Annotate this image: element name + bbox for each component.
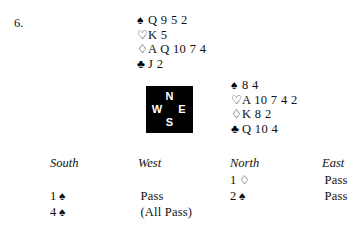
bid-suit-icon: ♠	[59, 189, 65, 205]
diamond-icon: ♢	[137, 42, 148, 57]
north-hand: ♠Q 9 5 2 ♡K 5 ♢A Q 10 7 4 ♣J 2	[137, 13, 206, 72]
north-club-cards: J 2	[148, 57, 163, 72]
east-heart-row: ♡A 10 7 4 2	[231, 93, 298, 108]
north-spade-cards: Q 9 5 2	[148, 13, 188, 28]
east-club-row: ♣Q 10 4	[231, 122, 298, 137]
bidding-row: 4♠ (All Pass)	[0, 205, 361, 221]
bid-north: 1♢	[230, 173, 250, 189]
east-club-cards: Q 10 4	[242, 122, 278, 137]
bid-level: 1	[50, 189, 57, 203]
bidding-table: South West North East 1♢ Pass 1♠	[0, 156, 361, 220]
club-icon: ♣	[137, 57, 148, 72]
bid-suit-icon: ♠	[59, 205, 65, 221]
east-heart-cards: A 10 7 4 2	[242, 93, 298, 108]
compass-east-letter: E	[176, 104, 188, 115]
east-spade-row: ♠8 4	[231, 78, 298, 93]
heart-icon: ♡	[231, 93, 242, 108]
compass-north-letter: N	[164, 91, 176, 102]
bid-suit-icon: ♠	[239, 189, 245, 205]
bid-level: 4	[50, 205, 57, 219]
north-spade-row: ♠Q 9 5 2	[137, 13, 206, 28]
club-icon: ♣	[231, 122, 242, 137]
problem-number: 6.	[14, 17, 23, 30]
north-club-row: ♣J 2	[137, 57, 206, 72]
bid-east: Pass	[322, 189, 348, 205]
bid-south	[50, 173, 53, 189]
bid-south: 1♠	[50, 189, 65, 205]
bridge-hand-problem: 6. ♠Q 9 5 2 ♡K 5 ♢A Q 10 7 4 ♣J 2 ♠8 4 ♡…	[0, 0, 361, 226]
bid-west: (All Pass)	[138, 205, 192, 221]
bid-text: Pass	[325, 173, 348, 187]
diamond-icon: ♢	[231, 107, 242, 122]
north-diamond-cards: A Q 10 7 4	[148, 42, 206, 57]
bidding-row: 1♠ Pass 2♠ Pass	[0, 189, 361, 205]
north-heart-cards: K 5	[148, 28, 167, 43]
east-diamond-cards: K 8 2	[242, 107, 272, 122]
bidding-header-row: South West North East	[0, 156, 361, 172]
east-diamond-row: ♢K 8 2	[231, 107, 298, 122]
bid-north: 2♠	[230, 189, 245, 205]
compass-west-letter: W	[151, 104, 163, 115]
bid-south: 4♠	[50, 205, 65, 221]
bid-text: Pass	[141, 189, 164, 203]
bid-suit-icon: ♢	[239, 173, 250, 189]
east-spade-cards: 8 4	[242, 78, 259, 93]
heart-icon: ♡	[137, 28, 148, 43]
bid-level: 1	[230, 173, 237, 187]
bidding-header-west: West	[138, 156, 161, 172]
bid-west: Pass	[138, 189, 164, 205]
bid-north	[230, 205, 233, 221]
north-diamond-row: ♢A Q 10 7 4	[137, 42, 206, 57]
bid-east: Pass	[322, 173, 348, 189]
bid-text: (All Pass)	[141, 205, 193, 219]
compass-south-letter: S	[164, 117, 176, 128]
bid-level: 2	[230, 189, 237, 203]
bidding-header-south: South	[50, 156, 78, 172]
spade-icon: ♠	[137, 13, 148, 28]
bid-text: Pass	[325, 189, 348, 203]
east-hand: ♠8 4 ♡A 10 7 4 2 ♢K 8 2 ♣Q 10 4	[231, 78, 298, 137]
spade-icon: ♠	[231, 78, 242, 93]
bidding-header-north: North	[230, 156, 259, 172]
bidding-row: 1♢ Pass	[0, 173, 361, 189]
north-heart-row: ♡K 5	[137, 28, 206, 43]
bid-east	[322, 205, 325, 221]
compass-rose-box: N W E S	[146, 86, 193, 133]
bidding-header-east: East	[322, 156, 344, 172]
bid-west	[138, 173, 141, 189]
